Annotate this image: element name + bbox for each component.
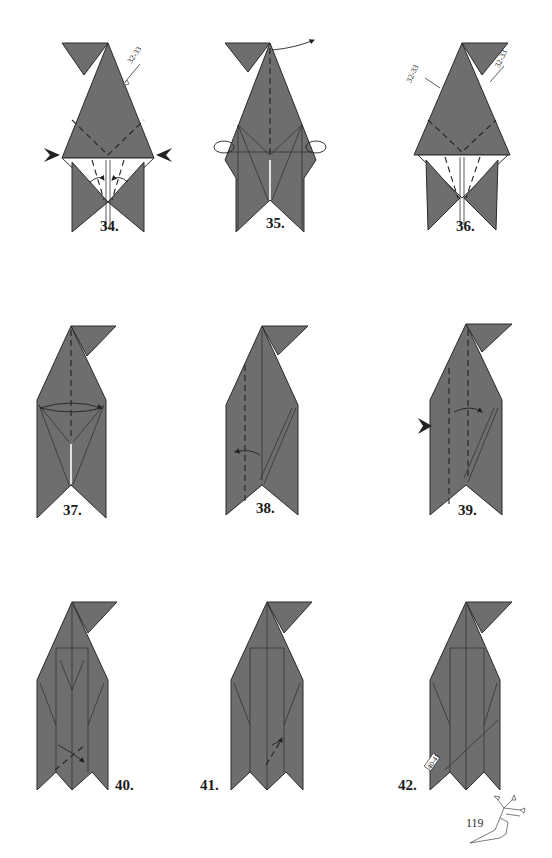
ref-label-34: 32-33 — [125, 45, 143, 65]
push-arrow-icon — [156, 148, 172, 162]
step-34-label: 34. — [100, 218, 119, 235]
step-39-label: 39. — [458, 502, 477, 519]
step-34-diagram — [44, 43, 172, 232]
step-38-diagram — [226, 326, 308, 515]
step-35-diagram — [214, 40, 326, 232]
step-41-label: 41. — [200, 777, 219, 794]
step-41-diagram — [231, 602, 312, 790]
push-arrow-icon — [44, 148, 60, 162]
step-37-diagram — [37, 326, 116, 518]
step-35-label: 35. — [266, 215, 285, 232]
step-37-label: 37. — [63, 502, 82, 519]
step-40-diagram — [37, 602, 117, 790]
diagram-canvas: 32-33 32-33 32-33 — [0, 0, 552, 858]
step-39-diagram — [418, 324, 512, 515]
step-42-label: 42. — [398, 777, 417, 794]
step-36-diagram — [414, 43, 510, 230]
page-number: 119 — [466, 816, 484, 831]
step-36-label: 36. — [456, 218, 475, 235]
step-40-label: 40. — [115, 777, 134, 794]
step-38-label: 38. — [256, 500, 275, 517]
ref-label-36a: 32-33 — [405, 63, 421, 84]
